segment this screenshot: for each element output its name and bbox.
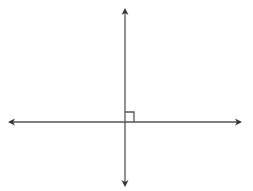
- perpendicular-lines-diagram: [0, 0, 253, 191]
- diagram-canvas: [0, 0, 253, 191]
- right-angle-marker: [125, 112, 134, 122]
